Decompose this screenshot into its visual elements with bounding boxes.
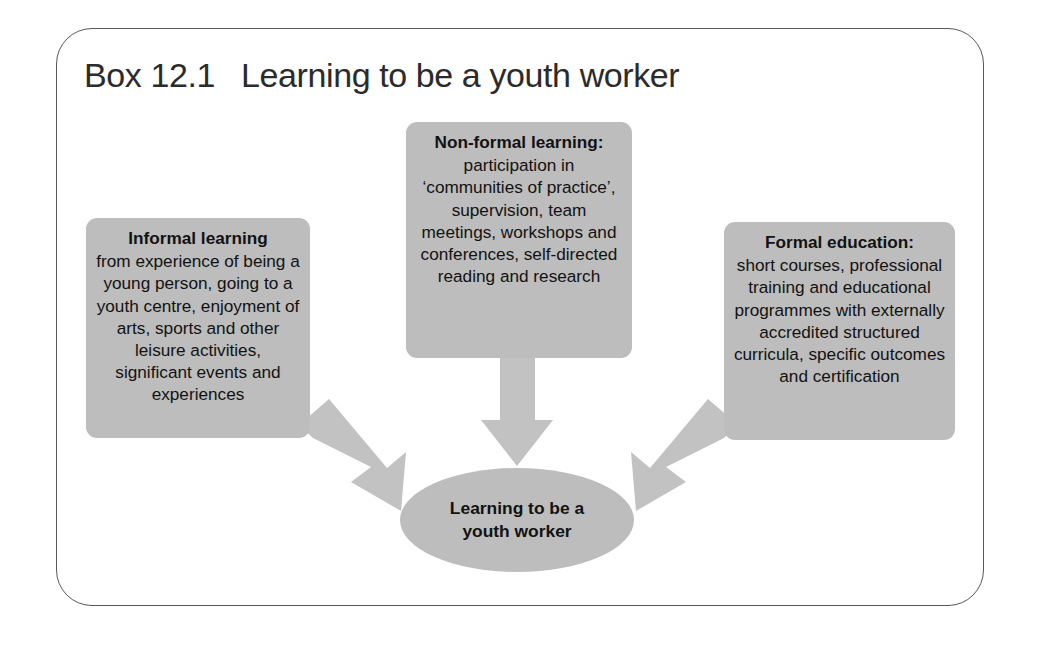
node-formal-body: short courses, professional training and… — [733, 254, 946, 387]
node-formal-education: Formal education: short courses, profess… — [724, 222, 955, 440]
node-nonformal-heading: Non-formal learning: — [415, 131, 623, 153]
node-nonformal-learning: Non-formal learning: participation in ‘c… — [406, 122, 632, 358]
node-outcome-label: Learning to be ayouth worker — [450, 497, 584, 542]
node-formal-heading: Formal education: — [733, 231, 946, 253]
node-informal-learning: Informal learning from experience of bei… — [86, 218, 310, 438]
page-title: Box 12.1Learning to be a youth worker — [84, 57, 679, 94]
node-outcome-line2: youth worker — [462, 521, 571, 541]
figure-root: Box 12.1Learning to be a youth worker In… — [0, 0, 1040, 659]
node-informal-heading: Informal learning — [95, 227, 301, 249]
node-outcome: Learning to be ayouth worker — [400, 468, 634, 572]
node-nonformal-body: participation in ‘communities of practic… — [415, 154, 623, 287]
node-outcome-line1: Learning to be a — [450, 498, 584, 518]
box-title-text: Learning to be a youth worker — [241, 56, 679, 94]
box-number: Box 12.1 — [84, 56, 215, 94]
node-informal-body: from experience of being a young person,… — [95, 250, 301, 405]
